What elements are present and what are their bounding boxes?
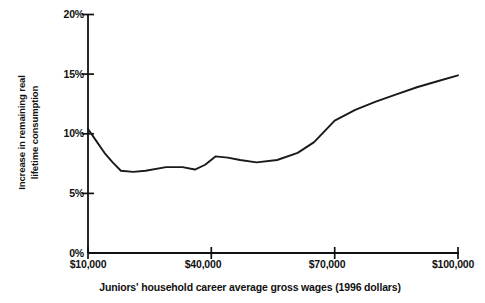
data-series-line [88,75,458,172]
plot-area [0,0,485,303]
chart-figure: Increase in remaining real lifetime cons… [0,0,485,303]
